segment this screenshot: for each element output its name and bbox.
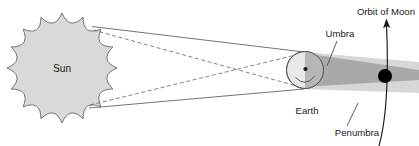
moon-body	[378, 69, 392, 83]
umbra-label: Umbra	[326, 28, 355, 39]
sun-label: Sun	[53, 63, 71, 74]
sun-group: Sun	[7, 13, 117, 123]
penumbra-label: Penumbra	[335, 127, 380, 138]
earth-body	[287, 52, 324, 89]
moon-circle	[378, 69, 392, 83]
ray-dashed-upper	[93, 30, 304, 88]
orbit-of-moon-label: Orbit of Moon	[357, 6, 415, 17]
label-penumbra-group: Penumbra	[335, 103, 380, 138]
penumbra-tangent-rays	[89, 27, 304, 109]
label-orbit-of-moon-group: Orbit of Moon	[357, 6, 415, 17]
label-earth-group: Earth	[296, 105, 319, 116]
eclipse-diagram: Sun Orbit of M	[0, 0, 419, 146]
earth-label: Earth	[296, 105, 319, 116]
ray-solid-upper	[92, 27, 304, 53]
penumbra-leader-line	[347, 103, 358, 126]
ray-solid-lower	[89, 89, 304, 108]
umbra-tangent-rays	[90, 30, 304, 105]
diagram-canvas: Sun Orbit of M	[0, 0, 419, 146]
earth-center-dot	[303, 67, 307, 71]
